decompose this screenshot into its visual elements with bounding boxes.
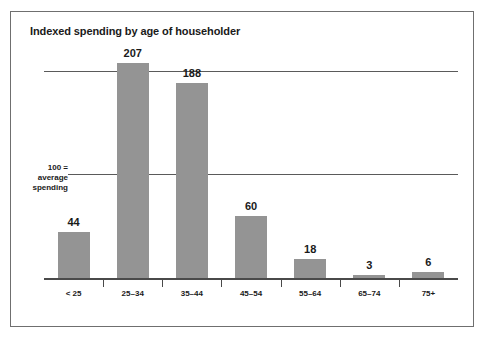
x-axis-label: 25–34: [103, 289, 163, 298]
bar-value-label: 18: [280, 243, 340, 255]
x-axis-tick: [399, 280, 400, 287]
bar-value-label: 3: [339, 259, 399, 271]
bar-value-label: 188: [162, 67, 222, 79]
bar-value-label: 60: [221, 200, 281, 212]
chart-figure: Indexed spending by age of householder 4…: [0, 0, 488, 340]
bar-value-label: 44: [44, 216, 104, 228]
bar-55-64: [294, 259, 326, 278]
x-axis-tick: [103, 280, 104, 287]
x-axis-tick: [281, 280, 282, 287]
x-axis-label: 55–64: [280, 289, 340, 298]
bar-value-label: 207: [103, 47, 163, 59]
baseline-annotation-line-3: spending: [18, 183, 68, 193]
plot-area: 44207188601836: [44, 55, 458, 278]
x-axis-tick: [340, 280, 341, 287]
x-axis-label: 75+: [398, 289, 458, 298]
bar-value-label: 6: [398, 256, 458, 268]
bar-25-34: [117, 63, 149, 278]
x-axis-label: 35–44: [162, 289, 222, 298]
x-axis-label: 65–74: [339, 289, 399, 298]
x-axis-tick: [221, 280, 222, 287]
x-axis-line: [44, 278, 458, 280]
x-axis-label: 45–54: [221, 289, 281, 298]
chart-title: Indexed spending by age of householder: [30, 25, 240, 37]
baseline-annotation-line-1: 100 =: [18, 163, 68, 173]
baseline-annotation-line-2: average: [18, 173, 68, 183]
bar--25: [58, 232, 90, 278]
x-axis-label: < 25: [44, 289, 104, 298]
bar-35-44: [176, 83, 208, 278]
gridline-200: [44, 71, 458, 72]
bar-45-54: [235, 216, 267, 278]
x-axis-tick: [162, 280, 163, 287]
baseline-annotation: 100 = average spending: [18, 163, 68, 193]
